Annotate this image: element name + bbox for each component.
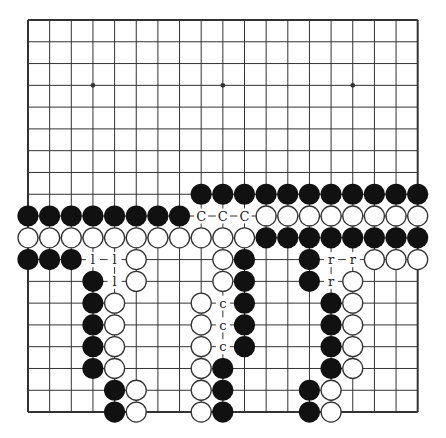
white-stone	[343, 358, 363, 378]
white-stone	[191, 315, 211, 335]
point-label: c	[219, 339, 226, 354]
point-label: r	[328, 274, 335, 289]
white-stone	[364, 206, 384, 226]
black-stone	[234, 249, 255, 270]
black-stone	[82, 271, 103, 292]
black-stone	[277, 227, 298, 248]
white-stone	[343, 293, 363, 313]
black-stone	[61, 205, 82, 226]
white-stone	[299, 206, 319, 226]
black-stone	[385, 227, 406, 248]
black-stone	[364, 227, 385, 248]
white-stone	[343, 271, 363, 291]
white-stone	[343, 337, 363, 357]
black-stone	[104, 205, 125, 226]
black-stone	[82, 336, 103, 357]
black-stone	[147, 205, 168, 226]
white-stone	[40, 228, 60, 248]
black-stone	[82, 358, 103, 379]
white-stone	[321, 402, 341, 422]
point-label: r	[350, 252, 357, 267]
black-stone	[61, 249, 82, 270]
black-stone	[234, 336, 255, 357]
white-stone	[83, 228, 103, 248]
white-stone	[408, 206, 428, 226]
black-stone	[169, 205, 190, 226]
white-stone	[61, 228, 81, 248]
white-stone	[386, 250, 406, 270]
black-stone	[299, 249, 320, 270]
black-stone	[126, 205, 147, 226]
black-stone	[321, 227, 342, 248]
black-stone	[256, 227, 277, 248]
black-stone	[212, 358, 233, 379]
black-stone	[321, 336, 342, 357]
black-stone	[234, 293, 255, 314]
black-stone	[342, 184, 363, 205]
black-stone	[321, 293, 342, 314]
star-point	[91, 83, 96, 88]
black-stone	[234, 271, 255, 292]
black-stone	[364, 184, 385, 205]
black-stone	[191, 184, 212, 205]
black-stone	[82, 314, 103, 335]
black-stone	[104, 401, 125, 422]
black-stone	[321, 314, 342, 335]
black-stone	[39, 205, 60, 226]
black-stone	[385, 184, 406, 205]
black-stone	[299, 227, 320, 248]
point-label: C	[196, 209, 206, 224]
black-stone	[299, 401, 320, 422]
point-label: c	[219, 296, 226, 311]
point-label: l	[91, 252, 95, 267]
black-stone	[17, 249, 38, 270]
black-stone	[342, 227, 363, 248]
black-stone	[17, 205, 38, 226]
black-stone	[277, 184, 298, 205]
black-stone	[82, 205, 103, 226]
white-stone	[126, 250, 146, 270]
go-board-diagram: CCClllcccrrr	[0, 0, 446, 438]
black-stone	[212, 184, 233, 205]
black-stone	[299, 380, 320, 401]
black-stone	[212, 380, 233, 401]
point-label: l	[113, 274, 117, 289]
point-label: r	[328, 252, 335, 267]
black-stone	[39, 249, 60, 270]
black-stone	[321, 184, 342, 205]
white-stone	[256, 206, 276, 226]
white-stone	[105, 358, 125, 378]
white-stone	[213, 228, 233, 248]
white-stone	[191, 293, 211, 313]
black-stone	[407, 184, 428, 205]
white-stone	[386, 206, 406, 226]
white-stone	[408, 250, 428, 270]
black-stone	[104, 380, 125, 401]
white-stone	[321, 206, 341, 226]
black-stone	[321, 358, 342, 379]
black-stone	[407, 227, 428, 248]
white-stone	[191, 358, 211, 378]
white-stone	[213, 250, 233, 270]
white-stone	[126, 402, 146, 422]
black-stone	[82, 293, 103, 314]
white-stone	[321, 380, 341, 400]
white-stone	[105, 228, 125, 248]
white-stone	[343, 206, 363, 226]
black-stone	[234, 184, 255, 205]
white-stone	[105, 293, 125, 313]
white-stone	[364, 250, 384, 270]
white-stone	[235, 228, 255, 248]
white-stone	[18, 228, 38, 248]
white-stone	[105, 315, 125, 335]
star-point	[350, 83, 355, 88]
white-stone	[213, 271, 233, 291]
point-label: C	[240, 209, 250, 224]
point-label: C	[218, 209, 228, 224]
white-stone	[126, 271, 146, 291]
white-stone	[191, 228, 211, 248]
black-stone	[299, 184, 320, 205]
black-stone	[256, 184, 277, 205]
white-stone	[191, 337, 211, 357]
white-stone	[278, 206, 298, 226]
